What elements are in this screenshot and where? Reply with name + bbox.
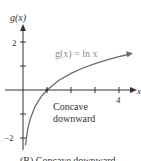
x-axis-arrow-icon bbox=[130, 87, 137, 93]
figure-caption: (B) Concave downward bbox=[20, 155, 116, 161]
y-tick-label-2: 2 bbox=[12, 38, 17, 48]
y-axis bbox=[20, 24, 26, 150]
x-axis-label: x bbox=[136, 86, 141, 96]
y-tick-label-neg2: −2 bbox=[4, 133, 14, 143]
x-axis bbox=[5, 87, 137, 93]
annotation-concave: Concave bbox=[53, 101, 89, 112]
root-point bbox=[46, 89, 49, 92]
curve-arrow-icon bbox=[126, 51, 133, 57]
x-tick-label-4: 4 bbox=[116, 95, 121, 105]
ln-curve bbox=[25, 55, 128, 146]
y-axis-arrow-icon bbox=[20, 24, 26, 31]
curve-label: g(x) = ln x bbox=[55, 48, 98, 60]
ln-graph: g(x) x 2 −2 4 g(x) = ln x Concave downwa… bbox=[0, 0, 141, 161]
annotation-downward: downward bbox=[53, 113, 95, 124]
y-axis-label: g(x) bbox=[10, 12, 27, 24]
